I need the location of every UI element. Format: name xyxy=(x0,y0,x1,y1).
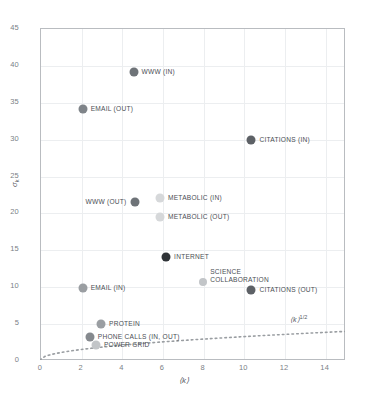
y-tick-label: 35 xyxy=(0,97,19,106)
data-point-marker[interactable] xyxy=(78,284,87,293)
data-point-label: EMAIL (OUT) xyxy=(91,105,133,113)
y-tick-label: 45 xyxy=(0,23,19,32)
y-axis-label-text: σ xyxy=(10,182,19,187)
data-point-label-line: COLLABORATION xyxy=(210,276,269,284)
data-point-marker[interactable] xyxy=(129,68,138,77)
data-point-marker[interactable] xyxy=(155,193,164,202)
data-point-marker[interactable] xyxy=(91,341,100,350)
data-point-label: PHONE CALLS (IN, OUT) xyxy=(98,333,180,341)
y-tick-label: 0 xyxy=(0,355,19,364)
y-tick-label: 15 xyxy=(0,244,19,253)
reference-curve-label-exponent: 1/2 xyxy=(300,314,308,320)
data-point-label: CITATIONS (OUT) xyxy=(259,286,317,294)
reference-curve-label-text: ⟨k⟩ xyxy=(290,316,300,323)
data-point-label: POWER GRID xyxy=(104,341,150,349)
y-axis-label: σk xyxy=(10,170,21,196)
x-tick-label: 10 xyxy=(231,363,255,372)
y-tick-label: 40 xyxy=(0,60,19,69)
x-tick-label: 12 xyxy=(272,363,296,372)
scatter-chart: 051015202530354045 02468101214 ⟨k⟩ σk WW… xyxy=(0,0,368,399)
data-point-marker[interactable] xyxy=(155,212,164,221)
reference-curve-label: ⟨k⟩1/2 xyxy=(290,314,307,324)
data-point-label: PROTEIN xyxy=(109,320,140,328)
data-point-label: CITATIONS (IN) xyxy=(259,136,310,144)
y-tick-label: 10 xyxy=(0,281,19,290)
x-tick-label: 6 xyxy=(150,363,174,372)
data-point-marker[interactable] xyxy=(130,198,139,207)
data-point-marker[interactable] xyxy=(247,136,256,145)
y-axis-label-subscript: k xyxy=(14,180,20,183)
data-point-marker[interactable] xyxy=(78,105,87,114)
x-tick-label: 14 xyxy=(313,363,337,372)
data-point-label: METABOLIC (IN) xyxy=(168,194,222,202)
data-point-label: WWW (IN) xyxy=(142,68,176,76)
data-point-label: METABOLIC (OUT) xyxy=(168,213,230,221)
y-tick-label: 5 xyxy=(0,318,19,327)
data-point-label: INTERNET xyxy=(174,253,209,261)
data-point-label: EMAIL (IN) xyxy=(91,285,126,293)
x-tick-label: 2 xyxy=(69,363,93,372)
x-tick-label: 8 xyxy=(191,363,215,372)
data-point-marker[interactable] xyxy=(199,278,207,286)
data-point-label: WWW (OUT) xyxy=(85,198,126,206)
data-point-marker[interactable] xyxy=(162,252,171,261)
data-point-label: SCIENCECOLLABORATION xyxy=(210,269,269,284)
x-axis-label: ⟨k⟩ xyxy=(0,376,368,385)
y-tick-label: 30 xyxy=(0,134,19,143)
data-point-marker[interactable] xyxy=(247,285,256,294)
data-point-marker[interactable] xyxy=(97,319,106,328)
x-tick-label: 0 xyxy=(28,363,52,372)
y-tick-label: 20 xyxy=(0,207,19,216)
x-axis-label-text: ⟨k⟩ xyxy=(179,376,189,385)
x-tick-label: 4 xyxy=(109,363,133,372)
data-point-label-line: SCIENCE xyxy=(210,269,269,277)
